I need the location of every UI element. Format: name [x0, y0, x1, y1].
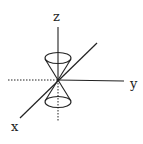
- x-label: x: [11, 119, 19, 134]
- y-label: y: [129, 76, 138, 91]
- z-label: z: [53, 9, 60, 24]
- y-axis: [58, 80, 124, 81]
- double-cone-diagram: z y x: [0, 0, 143, 144]
